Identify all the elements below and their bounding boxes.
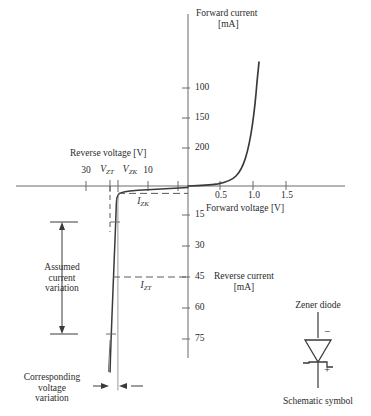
zener-diode-label: Zener diode: [295, 300, 341, 311]
forward-conduction-curve: [188, 62, 259, 186]
cvv-arrowhead-left: [119, 383, 127, 389]
acv-arrowhead-up: [59, 222, 65, 230]
corresponding-voltage-variation-label: Corresponding voltage variation: [24, 372, 80, 404]
marker-label-vzk: VZK: [123, 164, 137, 176]
reverse-current-axis-label: Reverse current [mA]: [214, 271, 274, 292]
tick-label-rv-10: 10: [143, 165, 153, 176]
tick-label-rc-60: 60: [195, 302, 205, 313]
forward-current-axis-label: Forward current [mA]: [196, 8, 257, 29]
diode-triangle: [305, 340, 331, 362]
reverse-voltage-axis-label: Reverse voltage [V]: [70, 148, 147, 159]
cathode-sign-label: −: [324, 325, 330, 337]
tick-label-rc-45: 45: [195, 271, 205, 282]
anode-sign-label: +: [324, 363, 330, 375]
tick-label-fv-0.5: 0.5: [215, 190, 227, 201]
marker-label-izt: IZT: [141, 280, 152, 292]
tick-label-fv-1.0: 1.0: [248, 190, 260, 201]
assumed-current-variation-label: Assumed current variation: [44, 262, 79, 294]
cvv-arrowhead-right: [101, 383, 109, 389]
tick-label-rc-75: 75: [195, 333, 205, 344]
tick-label-rv-30: 30: [81, 165, 91, 176]
acv-arrowhead-down: [59, 326, 65, 334]
marker-label-vzt: VZT: [100, 164, 114, 176]
tick-label-rc-15: 15: [195, 209, 205, 220]
tick-label-fv-1.5: 1.5: [281, 190, 293, 201]
zener-characteristic-figure: Forward current [mA] 200 150 100 0.5 1.0…: [0, 0, 371, 416]
schematic-symbol-caption: Schematic symbol: [283, 396, 353, 407]
tick-label-fc-200: 200: [195, 142, 209, 153]
iv-curve-plot: [0, 0, 371, 416]
tick-label-rc-30: 30: [195, 240, 205, 251]
marker-label-izk: IZK: [137, 196, 149, 208]
tick-label-fc-100: 100: [195, 82, 209, 93]
zener-breakdown-curve-secondary: [118, 193, 120, 390]
forward-voltage-axis-label: Forward voltage [V]: [206, 203, 284, 214]
tick-label-fc-150: 150: [195, 112, 209, 123]
